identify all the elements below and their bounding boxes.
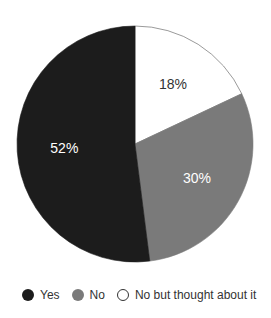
legend-label: Yes (40, 288, 60, 302)
legend-swatch-thought (117, 289, 129, 301)
legend-swatch-yes (22, 289, 34, 301)
slice-label: 18% (159, 76, 187, 92)
slice-label: 30% (183, 170, 211, 186)
legend-label: No but thought about it (135, 288, 256, 302)
pie-slice (17, 26, 150, 262)
pie-chart: 18%30%52% (0, 0, 271, 280)
slice-label: 52% (50, 140, 78, 156)
legend-swatch-no (72, 289, 84, 301)
legend-label: No (90, 288, 105, 302)
legend-item-thought: No but thought about it (117, 288, 256, 302)
legend-item-no: No (72, 288, 105, 302)
legend: Yes No No but thought about it (22, 288, 268, 302)
legend-item-yes: Yes (22, 288, 60, 302)
